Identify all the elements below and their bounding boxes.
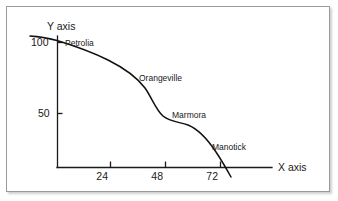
annotation-petrolia: Petrolia xyxy=(65,38,94,48)
screenshot-root: Y axis X axis 100 50 24 48 72 Petrolia O… xyxy=(0,0,338,201)
annotation-marmora: Marmora xyxy=(172,110,206,120)
x-tick-label-48: 48 xyxy=(151,170,163,182)
line-chart: Y axis X axis 100 50 24 48 72 Petrolia O… xyxy=(0,0,338,201)
annotation-manotick: Manotick xyxy=(212,142,247,152)
data-curve-line xyxy=(30,36,231,177)
y-tick-label-50: 50 xyxy=(38,107,50,119)
y-tick-label-100: 100 xyxy=(31,36,49,48)
y-axis-title: Y axis xyxy=(47,20,75,32)
annotation-orangeville: Orangeville xyxy=(139,73,182,83)
x-tick-label-72: 72 xyxy=(206,170,218,182)
x-tick-label-24: 24 xyxy=(96,170,108,182)
x-axis-title: X axis xyxy=(278,161,307,173)
